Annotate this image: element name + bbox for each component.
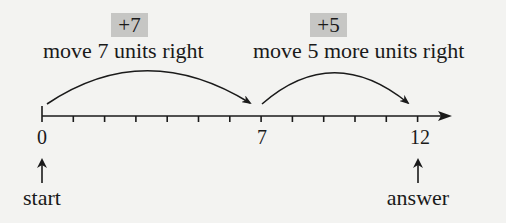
jump-arc-plus-7	[47, 71, 250, 104]
tick-label-7: 7	[257, 127, 267, 147]
operation-badge-plus-7: +7	[111, 13, 148, 37]
tick-label-12: 12	[410, 127, 430, 147]
answer-label: answer	[387, 187, 449, 209]
start-label: start	[23, 187, 61, 209]
number-line-axis	[42, 106, 452, 122]
number-line-diagram: +7 +5 move 7 units right move 5 more uni…	[0, 0, 506, 223]
operation-badge-plus-5: +5	[310, 13, 347, 37]
caption-step-1: move 7 units right	[43, 39, 204, 63]
ticks	[73, 116, 417, 122]
tick-label-0: 0	[37, 127, 47, 147]
caption-step-2: move 5 more units right	[253, 39, 464, 63]
jump-arc-plus-5	[262, 73, 408, 104]
answer-arrow-icon	[413, 158, 423, 183]
start-arrow-icon	[37, 158, 47, 183]
